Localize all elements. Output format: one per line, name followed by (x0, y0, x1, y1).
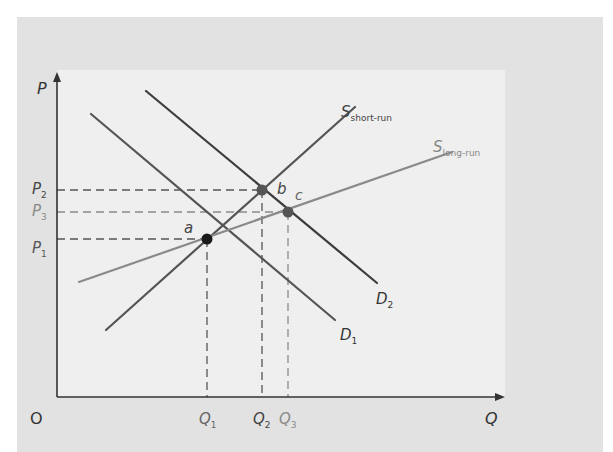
origin-label: O (30, 409, 43, 428)
price-label-P3: P3 (32, 202, 47, 222)
x-axis-arrow-icon (495, 393, 505, 401)
point-label-b: b (277, 180, 287, 198)
price-label-P1: P1 (32, 239, 47, 259)
point-label-c: c (295, 187, 303, 203)
equilibrium-point-a (202, 234, 213, 245)
curve-label-d2: D2 (376, 290, 393, 310)
price-label-P2: P2 (32, 180, 47, 200)
supply-demand-chart: PQOP2P3P1Q1Q2Q3abcSshort-runSlong-runD2D… (0, 0, 613, 452)
quantity-label-Q1: Q1 (199, 410, 217, 430)
curves (79, 91, 452, 330)
curve-label-long-run-supply: Slong-run (433, 138, 480, 158)
quantity-label-Q2: Q2 (253, 410, 271, 430)
equilibrium-point-b (257, 185, 268, 196)
quantity-label-Q3: Q3 (279, 410, 297, 430)
equilibrium-point-c (283, 207, 294, 218)
curve-label-d1: D1 (340, 326, 357, 346)
y-axis-label: P (37, 79, 47, 98)
chart-labels: PQOP2P3P1Q1Q2Q3abcSshort-runSlong-runD2D… (30, 79, 498, 430)
y-axis-arrow-icon (53, 72, 61, 82)
curve-label-short-run-supply: Sshort-run (341, 103, 392, 123)
point-label-a: a (184, 219, 193, 237)
curve-s-short-run (106, 107, 355, 330)
axes (53, 72, 505, 401)
x-axis-label: Q (485, 409, 498, 428)
